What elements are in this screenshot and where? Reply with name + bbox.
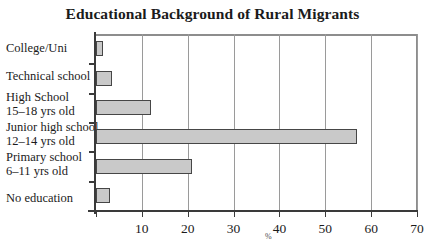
gridline xyxy=(142,34,143,210)
gridline xyxy=(371,34,372,210)
category-label-no-education: No education xyxy=(6,192,96,206)
x-axis-line xyxy=(88,210,418,212)
category-label-line1: No education xyxy=(6,191,73,205)
x-axis-tick xyxy=(142,210,143,217)
category-label-line1: Technical school xyxy=(6,69,90,83)
plot-area xyxy=(96,34,417,210)
x-axis-tick-label: 40 xyxy=(273,221,287,237)
x-axis-tick-label: 70 xyxy=(410,221,424,237)
x-axis-tick-label: 60 xyxy=(364,221,378,237)
x-axis-tick xyxy=(188,210,189,217)
gridline xyxy=(234,34,235,210)
bar xyxy=(96,71,112,86)
category-label-line2: 6–11 yrs old xyxy=(6,165,96,179)
gridline xyxy=(188,34,189,210)
category-label-line2: 15–18 yrs old xyxy=(6,105,96,119)
x-axis-unit-label: % xyxy=(265,232,272,241)
y-axis-tick xyxy=(89,93,96,95)
chart-title: Educational Background of Rural Migrants xyxy=(0,5,425,23)
gridline xyxy=(417,34,418,210)
category-label-line1: Junior high school xyxy=(6,120,98,134)
x-axis-tick xyxy=(96,210,97,217)
bar xyxy=(96,41,103,56)
bar xyxy=(96,129,357,144)
category-label-college-uni: College/Uni xyxy=(6,42,96,56)
category-label-line1: High School xyxy=(6,90,69,104)
chart-screenshot: Educational Background of Rural Migrants… xyxy=(0,0,425,246)
x-axis-tick xyxy=(417,210,418,217)
bar xyxy=(96,188,110,203)
category-label-high-school: High School 15–18 yrs old xyxy=(6,91,96,118)
category-label-junior-high-school: Junior high school 12–14 yrs old xyxy=(6,121,96,148)
x-axis-tick-label: 50 xyxy=(319,221,333,237)
x-axis-tick xyxy=(279,210,280,217)
y-axis-tick xyxy=(89,151,96,153)
gridline xyxy=(279,34,280,210)
x-axis-tick-label: 30 xyxy=(227,221,241,237)
x-axis-tick xyxy=(371,210,372,217)
category-label-line1: College/Uni xyxy=(6,41,67,55)
category-label-technical-school: Technical school xyxy=(6,70,96,84)
y-axis-tick xyxy=(89,63,96,65)
gridline xyxy=(325,34,326,210)
y-axis-tick xyxy=(89,181,96,183)
bar xyxy=(96,100,151,115)
x-axis-tick-label: 10 xyxy=(135,221,149,237)
bar xyxy=(96,159,192,174)
plot-frame-top xyxy=(96,34,417,36)
x-axis-tick xyxy=(325,210,326,217)
category-label-line2: 12–14 yrs old xyxy=(6,135,96,149)
category-label-line1: Primary school xyxy=(6,150,82,164)
category-label-primary-school: Primary school 6–11 yrs old xyxy=(6,151,96,178)
x-axis-tick xyxy=(234,210,235,217)
y-axis-tick xyxy=(89,122,96,124)
x-axis-tick-label: 20 xyxy=(181,221,195,237)
